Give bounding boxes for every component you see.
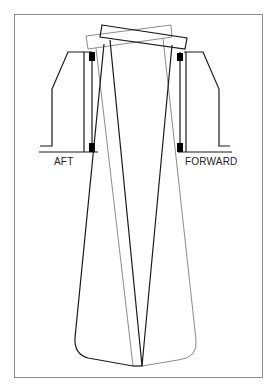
- forward-housing: [178, 52, 232, 152]
- forward-seal-bottom: [177, 143, 183, 152]
- forward-label: FORWARD: [185, 156, 238, 167]
- aft-housing: [39, 52, 98, 152]
- forward-seal-top: [177, 53, 183, 61]
- outer-frame: [15, 15, 263, 378]
- pivot-diagram: [0, 0, 276, 392]
- aft-label: AFT: [54, 156, 74, 167]
- aft-seal-top: [89, 52, 95, 61]
